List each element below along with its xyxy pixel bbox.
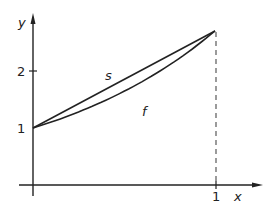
x-tick-label-1: 1 — [212, 189, 220, 204]
function-diagram: y x 2 1 1 s f — [0, 0, 272, 214]
y-axis-label: y — [17, 15, 26, 30]
curve-label-f: f — [142, 104, 149, 119]
y-tick-label-1: 1 — [17, 121, 25, 136]
y-axis-arrow-icon — [31, 13, 36, 24]
x-axis-arrow-icon — [252, 183, 263, 188]
y-tick-label-2: 2 — [17, 64, 25, 79]
curve-label-s: s — [105, 68, 112, 83]
secant-line-s — [33, 31, 215, 128]
x-axis-label: x — [233, 189, 242, 204]
